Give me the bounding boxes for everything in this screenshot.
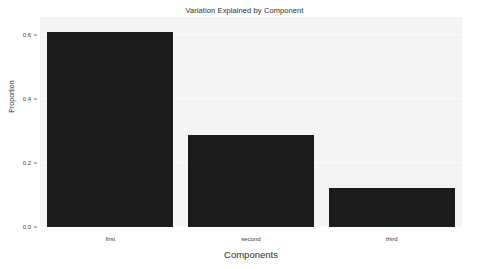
x-axis: Components firstsecondthird — [0, 227, 489, 269]
chart-title: Variation Explained by Component — [0, 6, 489, 15]
x-axis-title: Components — [40, 249, 462, 260]
bar-second — [188, 135, 314, 227]
y-tick-mark — [34, 162, 37, 163]
bar-first — [47, 32, 173, 227]
y-axis-title: Proportion — [8, 42, 15, 152]
chart-figure: Variation Explained by Component Proport… — [0, 0, 489, 269]
x-tick-label-third: third — [386, 236, 398, 242]
x-tick-label-second: second — [241, 236, 260, 242]
bar-third — [329, 188, 455, 227]
y-tick-label: 0.2 — [23, 160, 31, 166]
y-tick-mark — [34, 34, 37, 35]
y-tick-mark — [34, 98, 37, 99]
y-tick-label: 0.6 — [23, 32, 31, 38]
y-axis: Proportion 0.00.20.40.6 — [0, 17, 40, 227]
plot-area — [40, 17, 462, 227]
x-tick-label-first: first — [105, 236, 115, 242]
y-tick-label: 0.4 — [23, 96, 31, 102]
